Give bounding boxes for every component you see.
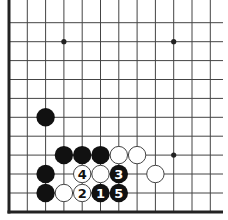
white-stone <box>92 165 109 182</box>
move-number-label: 1 <box>96 186 105 201</box>
black-stone <box>91 146 109 164</box>
black-stone: 5 <box>110 184 128 202</box>
star-point <box>61 39 66 44</box>
black-stone: 1 <box>91 184 109 202</box>
move-number-label: 2 <box>78 186 87 201</box>
go-board: 43215 <box>0 0 228 220</box>
white-stone: 2 <box>74 184 91 201</box>
black-stone <box>36 184 54 202</box>
black-stone <box>36 165 54 183</box>
black-stone <box>55 146 73 164</box>
white-stone: 4 <box>74 165 91 182</box>
star-point <box>171 153 176 158</box>
white-stone <box>128 146 145 163</box>
black-stone: 3 <box>110 165 128 183</box>
move-number-label: 4 <box>78 167 87 182</box>
black-stone <box>36 108 54 126</box>
star-point <box>171 39 176 44</box>
white-stone <box>147 165 164 182</box>
move-number-label: 3 <box>114 167 123 182</box>
white-stone <box>110 146 127 163</box>
black-stone <box>73 146 91 164</box>
move-number-label: 5 <box>114 186 123 201</box>
white-stone <box>55 184 72 201</box>
